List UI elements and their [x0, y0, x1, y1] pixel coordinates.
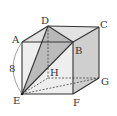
cube-diagram: A D C B H G E F 8: [0, 0, 117, 116]
label-C: C: [100, 19, 108, 30]
vertex-E-dot: [21, 93, 24, 96]
label-D: D: [41, 15, 49, 26]
edge-length-label: 8: [9, 63, 15, 74]
label-A: A: [11, 34, 20, 45]
label-G: G: [101, 76, 109, 87]
label-H: H: [50, 67, 59, 78]
label-B: B: [75, 45, 82, 56]
label-F: F: [73, 97, 80, 108]
label-E: E: [13, 95, 20, 106]
